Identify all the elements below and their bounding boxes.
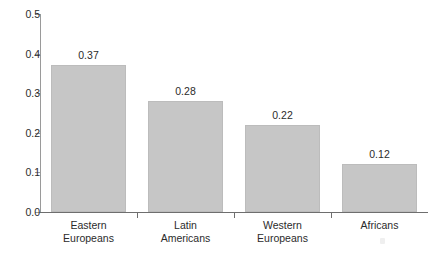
category-label-line: Western (234, 219, 331, 232)
category-label: LatinAmericans (137, 219, 234, 245)
x-axis-tick (137, 213, 138, 218)
bar (51, 65, 127, 212)
category-label-line: Europeans (234, 232, 331, 245)
category-label-line: Americans (137, 232, 234, 245)
bar-value-label: 0.22 (234, 110, 331, 121)
category-label-line: Eastern (40, 219, 137, 232)
y-axis-tick-label: 0.0 (12, 207, 40, 218)
y-axis-tick-label: 0.5 (12, 9, 40, 20)
y-axis-tick-label: 0.4 (12, 48, 40, 59)
bar (148, 101, 224, 212)
category-label: Africans (331, 219, 428, 232)
bar (245, 125, 321, 212)
bar-value-label: 0.28 (137, 86, 234, 97)
category-label: EasternEuropeans (40, 219, 137, 245)
x-axis-tick (234, 213, 235, 218)
category-label: WesternEuropeans (234, 219, 331, 245)
category-label-line: Africans (331, 219, 428, 232)
y-axis-tick-label: 0.1 (12, 167, 40, 178)
bar-value-label: 0.37 (40, 50, 137, 61)
bar (342, 164, 418, 212)
bar-value-label: 0.12 (331, 149, 428, 160)
artifact-speck (380, 238, 385, 244)
bar-chart: 0.00.10.20.30.40.5 0.370.280.220.12 East… (0, 0, 434, 257)
y-axis-line (40, 14, 41, 213)
y-axis-tick-label: 0.3 (12, 88, 40, 99)
y-axis-tick-label: 0.2 (12, 128, 40, 139)
category-label-line: Europeans (40, 232, 137, 245)
x-axis-tick (331, 213, 332, 218)
category-label-line: Latin (137, 219, 234, 232)
